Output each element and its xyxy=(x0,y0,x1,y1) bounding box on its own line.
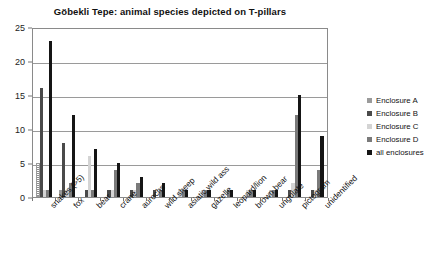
legend-swatch xyxy=(367,98,372,103)
bar-group xyxy=(146,29,169,197)
x-axis-labels: snakes (>5)foxbearcraneaurochswild sheep… xyxy=(32,200,328,269)
x-tick-label: asiatic wild ass xyxy=(185,203,192,210)
legend-item: Enclosure D xyxy=(367,133,441,146)
bar-group xyxy=(101,29,124,197)
legend-label: Enclosure B xyxy=(376,110,418,118)
bar-group xyxy=(304,29,327,197)
bars-layer xyxy=(33,29,327,197)
y-tick-label: 20 xyxy=(15,57,25,67)
bar-group xyxy=(56,29,79,197)
bar-group xyxy=(259,29,282,197)
bar xyxy=(140,177,143,197)
legend-label: Enclosure C xyxy=(376,123,418,131)
x-tick-label: bear xyxy=(94,203,101,210)
bar xyxy=(40,88,43,197)
legend-swatch xyxy=(367,124,372,129)
bar-group xyxy=(169,29,192,197)
y-axis: 0510152025 xyxy=(0,28,32,198)
x-tick-label: ungulate xyxy=(276,203,283,210)
x-tick-label: snakes (>5) xyxy=(48,203,55,210)
y-tick-label: 25 xyxy=(15,23,25,33)
x-tick-label: aurochs xyxy=(139,203,146,210)
chart-container: Göbekli Tepe: animal species depicted on… xyxy=(0,0,441,269)
x-tick-label: unidentified xyxy=(322,203,329,210)
legend-label: Enclosure D xyxy=(376,136,418,144)
x-tick-label: wild sheep xyxy=(162,203,169,210)
legend-swatch xyxy=(367,137,372,142)
bar-group xyxy=(78,29,101,197)
legend-label: all enclosures xyxy=(376,149,424,157)
legend-item: Enclosure B xyxy=(367,107,441,120)
x-tick-label: gazelle xyxy=(208,203,215,210)
y-tick-label: 10 xyxy=(15,125,25,135)
legend-swatch xyxy=(367,111,372,116)
bar-group xyxy=(191,29,214,197)
x-tick-label: brown bear xyxy=(253,203,260,210)
legend-label: Enclosure A xyxy=(376,97,418,105)
legend-item: Enclosure C xyxy=(367,120,441,133)
bar-group xyxy=(282,29,305,197)
y-tick-label: 0 xyxy=(20,193,25,203)
legend-item: Enclosure A xyxy=(367,94,441,107)
legend-swatch xyxy=(367,150,372,155)
chart-title: Göbekli Tepe: animal species depicted on… xyxy=(0,6,340,17)
x-tick-label: leopard/lion xyxy=(231,203,238,210)
y-tick-label: 5 xyxy=(20,159,25,169)
bar xyxy=(49,41,52,197)
x-tick-label: pictogram xyxy=(299,203,306,210)
chart-legend: Enclosure AEnclosure BEnclosure CEnclosu… xyxy=(367,94,441,159)
bar xyxy=(117,163,120,197)
legend-item: all enclosures xyxy=(367,146,441,159)
bar-group xyxy=(33,29,56,197)
y-tick-label: 15 xyxy=(15,91,25,101)
bar xyxy=(94,149,97,197)
x-tick-label: crane xyxy=(117,203,124,210)
bar-group xyxy=(236,29,259,197)
plot-area xyxy=(32,28,328,198)
bar-group xyxy=(123,29,146,197)
x-tick-label: fox xyxy=(71,203,78,210)
